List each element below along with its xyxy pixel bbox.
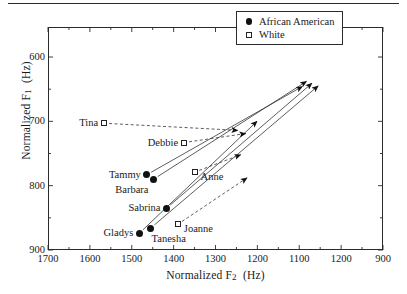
- x-tick-label: 1300: [196, 254, 236, 264]
- y-axis-title-main: Normalized F: [20, 94, 32, 160]
- point-label-joanne: Joanne: [184, 223, 213, 234]
- open-square-icon: [242, 32, 256, 38]
- x-axis-title-main: Normalized F: [166, 269, 232, 281]
- data-point-tanesha: [147, 225, 154, 232]
- point-label-tanesha: Tanesha: [152, 233, 186, 244]
- trajectory-arrow-sabrina: [170, 83, 312, 205]
- x-axis-title: Normalized F2 (Hz): [48, 269, 383, 282]
- trajectory-arrow-tanesha: [154, 86, 318, 225]
- point-label-debbie: Debbie: [148, 137, 178, 148]
- point-label-barbara: Barbara: [115, 184, 148, 195]
- y-axis-title-unit: (Hz): [20, 61, 32, 83]
- x-tick-label: 1200: [321, 254, 361, 264]
- x-tick-label: 1500: [112, 254, 152, 264]
- x-tick-label: 1400: [154, 254, 194, 264]
- legend: African AmericanWhite: [236, 11, 343, 45]
- legend-entry-african-american: African American: [242, 15, 335, 28]
- axis-ticks: [48, 27, 383, 250]
- x-tick-label: 1100: [279, 254, 319, 264]
- x-axis-title-subscript: 2: [232, 272, 237, 282]
- data-point-anne: [192, 169, 198, 175]
- trajectory-arrow-tammy: [151, 87, 302, 173]
- x-tick-label: 1600: [70, 254, 110, 264]
- x-tick-label: 900: [363, 254, 403, 264]
- point-label-anne: Anne: [201, 171, 224, 182]
- trajectory-arrow-tina: [109, 124, 238, 131]
- data-point-gladys: [136, 230, 143, 237]
- data-point-sabrina: [163, 205, 170, 212]
- x-tick-label: 1700: [28, 254, 68, 264]
- legend-label: White: [256, 29, 285, 40]
- data-point-tina: [101, 120, 107, 126]
- data-point-joanne: [175, 221, 181, 227]
- plot-vector-layer: [0, 0, 407, 294]
- point-label-tina: Tina: [79, 117, 98, 128]
- point-label-gladys: Gladys: [104, 227, 134, 238]
- point-label-sabrina: Sabrina: [128, 202, 160, 213]
- x-axis-tick-labels: 17001600150014001300120011001200900: [0, 254, 407, 268]
- data-point-debbie: [181, 140, 187, 146]
- legend-label: African American: [256, 16, 335, 27]
- x-axis-title-unit: (Hz): [243, 269, 265, 281]
- legend-entry-white: White: [242, 28, 335, 41]
- filled-circle-icon: [242, 18, 256, 25]
- trajectory-arrow-joanne: [182, 178, 247, 222]
- point-label-tammy: Tammy: [109, 169, 141, 180]
- y-axis-title: Normalized F1 (Hz): [20, 21, 33, 201]
- data-point-barbara: [150, 176, 157, 183]
- trajectory-arrow-barbara: [158, 81, 307, 176]
- figure-container: TammyBarbaraSabrinaGladysTaneshaTinaDebb…: [0, 0, 407, 294]
- x-tick-label: 1200: [237, 254, 277, 264]
- y-axis-title-subscript: 1: [23, 89, 33, 94]
